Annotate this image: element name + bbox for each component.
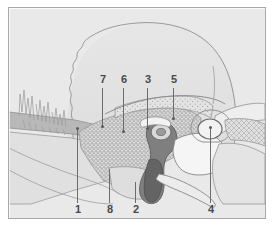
leader-dot-1 (76, 127, 79, 130)
leader-line-8 (109, 169, 110, 203)
label-1: 1 (72, 204, 84, 215)
label-5: 5 (168, 74, 180, 85)
label-8: 8 (104, 204, 116, 215)
leader-dot-3 (146, 127, 149, 130)
anatomy-illustration (9, 8, 265, 218)
label-3: 3 (142, 74, 154, 85)
leader-line-7 (102, 88, 103, 127)
figure-root: 7 6 3 5 1 8 2 4 (0, 0, 274, 234)
leader-line-1 (77, 128, 78, 203)
label-4: 4 (205, 204, 217, 215)
label-2: 2 (130, 204, 142, 215)
leader-line-4 (210, 127, 211, 203)
leader-line-2 (135, 182, 136, 203)
leader-line-6 (123, 88, 124, 132)
leader-line-3 (147, 88, 148, 129)
right-lower-bone (212, 143, 265, 204)
leader-dot-4 (209, 126, 212, 129)
leader-dot-7 (101, 125, 104, 128)
leader-dot-6 (122, 130, 125, 133)
leader-line-5 (173, 88, 174, 119)
figure-frame (8, 7, 266, 219)
leader-dot-5 (172, 117, 175, 120)
label-7: 7 (97, 74, 109, 85)
label-6: 6 (118, 74, 130, 85)
ossicle-ring-inner (157, 128, 166, 135)
